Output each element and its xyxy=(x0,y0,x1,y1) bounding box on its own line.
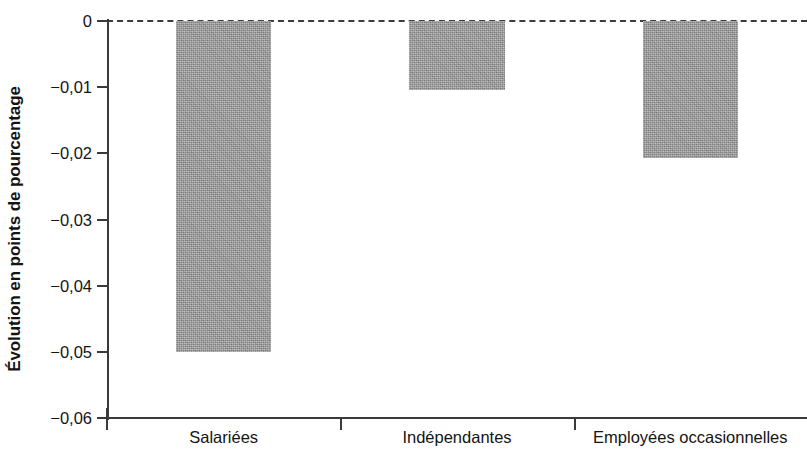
y-axis-tick xyxy=(97,152,108,154)
y-axis-tick-label: −0,03 xyxy=(0,210,92,229)
y-axis-tick-label: −0,02 xyxy=(0,144,92,163)
x-axis-category-label: Indépendantes xyxy=(340,428,573,447)
y-axis-title: Évolution en points de pourcentage xyxy=(0,0,30,458)
x-axis-category-label: Employées occasionnelles xyxy=(574,428,807,447)
bar[interactable] xyxy=(409,21,505,90)
y-axis-tick xyxy=(97,219,108,221)
y-axis-tick xyxy=(97,351,108,353)
y-axis-tick xyxy=(97,86,108,88)
y-axis-tick-label: 0 xyxy=(0,12,92,31)
y-axis-tick xyxy=(97,20,108,22)
bar[interactable] xyxy=(643,21,739,158)
y-axis-tick-label: −0,04 xyxy=(0,276,92,295)
y-axis-tick-label: −0,06 xyxy=(0,409,92,428)
x-axis-line xyxy=(107,417,807,419)
y-axis-tick-label: −0,05 xyxy=(0,342,92,361)
y-axis-tick xyxy=(97,417,108,419)
y-axis-tick-label: −0,01 xyxy=(0,78,92,97)
bar[interactable] xyxy=(176,21,272,352)
x-axis-category-label: Salariées xyxy=(107,428,340,447)
x-axis-origin-tick-vertical xyxy=(106,408,108,430)
y-axis-tick xyxy=(97,285,108,287)
bar-chart-figure: Évolution en points de pourcentage 0−0,0… xyxy=(0,0,807,458)
